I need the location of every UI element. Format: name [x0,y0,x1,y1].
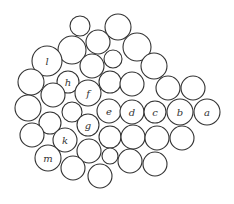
circle-e: e [97,99,121,123]
circle-c: c [144,101,166,123]
circle-label: b [177,107,183,118]
circle-label: k [62,135,68,146]
circle-label: l [45,56,48,67]
circle [18,69,44,95]
circle-label: d [129,107,135,118]
circle-label: a [204,107,210,118]
circle [99,126,121,148]
circle [118,149,142,173]
circle-shape [99,126,121,148]
circle-shape [15,95,41,121]
circle-label: h [65,77,71,88]
circle-label: c [152,107,158,118]
circle [70,16,90,36]
circle-shape [121,125,145,149]
circle [61,156,85,180]
circle [80,54,104,78]
circle-packing-diagram: lhfedcbagkm [0,0,234,204]
circle-shape [86,30,110,54]
circle [41,83,65,107]
circle-shape [156,76,180,100]
circle-label: m [43,153,52,164]
circle [88,164,112,188]
circle [102,148,118,164]
circle-g: g [77,114,99,136]
circle [170,126,194,150]
circle-shape [102,148,118,164]
circle-m: m [35,145,61,171]
circle [99,71,121,93]
circle-shape [170,126,194,150]
circle-shape [118,149,142,173]
circle [156,76,180,100]
circle-shape [80,54,104,78]
circle [120,72,144,96]
circle-shape [143,152,167,176]
circle-b: b [167,99,193,125]
circle-shape [120,72,144,96]
circle-shape [20,123,44,147]
circle [121,125,145,149]
circle-label: e [106,106,112,117]
circle [141,53,167,79]
circle-a: a [194,99,220,125]
circle-shape [88,164,112,188]
circle-shape [104,50,122,68]
circle [143,152,167,176]
circle [145,126,169,150]
circle-shape [99,71,121,93]
circle [104,50,122,68]
circle [20,123,44,147]
circle-shape [145,126,169,150]
circle [86,30,110,54]
circle-shape [70,16,90,36]
circle-label: g [85,120,91,131]
circle-shape [18,69,44,95]
circle-shape [141,53,167,79]
circle-f: f [75,80,101,106]
circle [181,76,205,100]
circle [15,95,41,121]
circle-d: d [120,100,144,124]
circle-shape [181,76,205,100]
circle-shape [41,83,65,107]
circle-shape [61,156,85,180]
